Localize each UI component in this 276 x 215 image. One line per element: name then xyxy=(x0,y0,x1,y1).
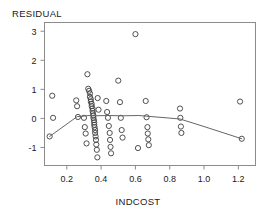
data-point xyxy=(50,93,55,98)
data-point xyxy=(108,151,113,156)
data-point xyxy=(177,106,182,111)
data-point xyxy=(135,145,140,150)
y-tick-label: 1 xyxy=(31,85,36,95)
data-point xyxy=(94,147,99,152)
x-tick-label: 0.8 xyxy=(163,174,176,184)
data-point xyxy=(105,109,110,114)
data-point xyxy=(237,99,242,104)
data-point xyxy=(117,100,122,105)
y-tick-label: 2 xyxy=(31,56,36,66)
data-point xyxy=(116,78,121,83)
data-point xyxy=(120,135,125,140)
data-point xyxy=(179,130,184,135)
data-point xyxy=(178,124,183,129)
data-point xyxy=(85,72,90,77)
data-point xyxy=(82,125,87,130)
x-tick-label: 1.0 xyxy=(198,174,211,184)
y-tick-label: -1 xyxy=(28,143,36,153)
data-point xyxy=(119,127,124,132)
data-point xyxy=(107,130,112,135)
data-point xyxy=(106,123,111,128)
data-point xyxy=(104,98,109,103)
data-point xyxy=(74,104,79,109)
x-tick-label: 0.6 xyxy=(129,174,142,184)
data-point xyxy=(133,32,138,37)
data-point xyxy=(83,131,88,136)
data-point xyxy=(108,144,113,149)
y-tick-label: 0 xyxy=(31,114,36,124)
plot-frame xyxy=(45,23,256,166)
data-points xyxy=(47,32,244,160)
data-point xyxy=(146,143,151,148)
data-point xyxy=(95,155,100,160)
data-point xyxy=(107,137,112,142)
plot-title: RESIDUAL xyxy=(12,8,62,19)
data-point xyxy=(95,95,100,100)
data-point xyxy=(143,98,148,103)
data-point xyxy=(84,141,89,146)
residual-scatter-plot: RESIDUAL 3210-1 0.20.40.60.81.01.2 INDCO… xyxy=(0,0,276,215)
data-point xyxy=(145,131,150,136)
y-axis-ticks: 3210-1 xyxy=(28,27,44,153)
x-axis-ticks: 0.20.40.60.81.01.2 xyxy=(61,166,245,184)
data-point xyxy=(96,107,101,112)
chart-figure: RESIDUAL 3210-1 0.20.40.60.81.01.2 INDCO… xyxy=(0,0,276,215)
x-tick-label: 0.2 xyxy=(61,174,74,184)
data-point xyxy=(50,115,55,120)
x-tick-label: 1.2 xyxy=(232,174,245,184)
data-point xyxy=(145,125,150,130)
x-tick-label: 0.4 xyxy=(95,174,108,184)
data-point xyxy=(146,137,151,142)
y-tick-label: 3 xyxy=(31,27,36,37)
data-point xyxy=(144,115,149,120)
x-axis-label: INDCOST xyxy=(116,196,161,207)
data-point xyxy=(74,98,79,103)
